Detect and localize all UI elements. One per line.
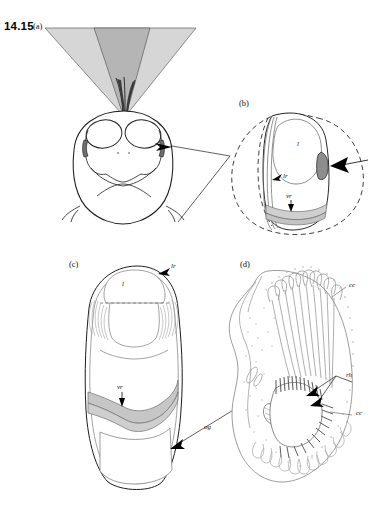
- arrow-b-dorsal-rim: [330, 157, 368, 173]
- label-c-ommatidial-group: og: [204, 423, 211, 431]
- label-d-crystalline-cone-lower: cc: [356, 409, 362, 417]
- panel-label-b: (b): [239, 98, 249, 108]
- panel-d: [229, 266, 354, 482]
- panel-a: [45, 28, 230, 224]
- figure-canvas: [0, 0, 389, 505]
- label-b-ventral-rim: vr: [286, 192, 292, 200]
- label-d-crystalline-cone-upper: cc: [349, 281, 355, 289]
- panel-c: [85, 266, 248, 490]
- label-b-lateral-rim: lr: [283, 172, 288, 180]
- panel-label-a: (a): [33, 21, 42, 31]
- label-b-lens: l: [297, 140, 299, 148]
- panel-label-c: (c): [69, 259, 78, 269]
- lens-dome: [273, 119, 322, 184]
- leader-line-d-cc-upper: [332, 287, 346, 297]
- panel-label-d: (d): [240, 259, 250, 269]
- label-d-rhabdom: rh: [346, 371, 352, 379]
- panel-b: [232, 113, 368, 235]
- figure-14-15: 14.15: [0, 0, 389, 505]
- leader-line-a-to-b: [172, 146, 230, 222]
- label-c-lens: l: [122, 280, 124, 288]
- label-c-ventral-rim: vr: [117, 383, 123, 391]
- label-c-lateral-rim: lr: [171, 262, 176, 270]
